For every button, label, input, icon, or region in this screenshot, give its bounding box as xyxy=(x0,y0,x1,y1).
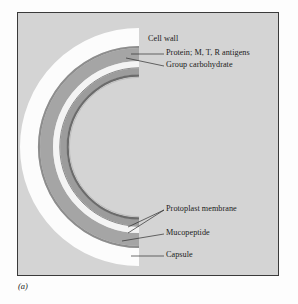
figure-root: Cell wall Protein; M, T, R antigens Grou… xyxy=(0,0,298,304)
layer-protoplast-membrane xyxy=(68,76,211,219)
label-mucopeptide: Mucopeptide xyxy=(166,229,210,237)
label-group-carbohydrate: Group carbohydrate xyxy=(166,61,233,69)
diagram-panel: Cell wall Protein; M, T, R antigens Grou… xyxy=(17,12,279,276)
label-protoplast-membrane: Protoplast membrane xyxy=(166,205,237,213)
label-cell-wall: Cell wall xyxy=(148,35,178,43)
layer-mucopeptide xyxy=(64,72,215,223)
label-protein-antigens: Protein; M, T, R antigens xyxy=(166,49,250,57)
figure-caption: (a) xyxy=(18,281,28,291)
label-capsule: Capsule xyxy=(166,251,193,259)
layer-stack xyxy=(29,37,249,257)
layer-inner-boundary xyxy=(69,77,208,216)
